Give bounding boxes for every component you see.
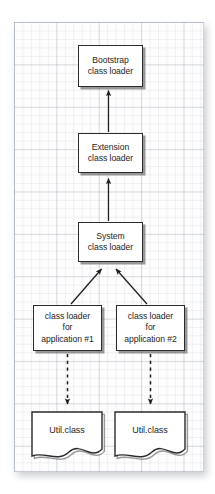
document-util-class-1-label: Util.class (31, 425, 103, 435)
document-util-class-2[interactable]: Util.class (114, 411, 186, 459)
node-extension-line2: class loader (88, 153, 133, 164)
node-app1-line1: class loader (45, 311, 90, 322)
node-application2-class-loader[interactable]: class loader for application #2 (116, 305, 185, 351)
document-util-class-1[interactable]: Util.class (31, 411, 103, 459)
node-app2-line1: class loader (128, 311, 173, 322)
node-bootstrap-class-loader[interactable]: Bootstrap class loader (78, 45, 143, 87)
node-app1-line2: for (63, 322, 73, 333)
node-bootstrap-line2: class loader (88, 66, 133, 77)
class-loader-diagram: Bootstrap class loader Extension class l… (0, 0, 215, 494)
node-extension-class-loader[interactable]: Extension class loader (78, 133, 143, 173)
node-app2-line2: for (146, 322, 156, 333)
node-system-line2: class loader (88, 242, 133, 253)
node-application1-class-loader[interactable]: class loader for application #1 (33, 305, 102, 351)
node-extension-line1: Extension (92, 142, 129, 153)
node-bootstrap-line1: Bootstrap (92, 55, 128, 66)
document-shape-icon (31, 411, 107, 463)
node-app1-line3: application #1 (41, 334, 93, 345)
node-system-line1: System (96, 231, 124, 242)
node-app2-line3: application #2 (124, 334, 176, 345)
node-system-class-loader[interactable]: System class loader (78, 222, 143, 262)
document-util-class-2-label: Util.class (114, 425, 186, 435)
document-shape-icon (114, 411, 190, 463)
